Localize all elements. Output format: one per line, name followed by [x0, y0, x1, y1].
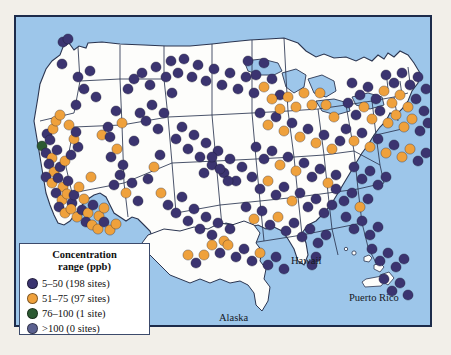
site-point: [156, 188, 166, 198]
site-point: [147, 100, 157, 110]
site-point: [413, 156, 423, 166]
site-point: [63, 176, 73, 186]
site-point: [249, 88, 259, 98]
site-point: [279, 182, 289, 192]
site-point: [281, 226, 291, 236]
site-point: [403, 102, 413, 112]
legend-title-line2: range (ppb): [58, 261, 111, 272]
site-point: [213, 218, 223, 228]
site-point: [251, 70, 261, 80]
site-point: [331, 184, 341, 194]
site-point: [279, 126, 289, 136]
legend-entry-label: >100 (0 sites): [42, 323, 100, 334]
site-point: [243, 56, 253, 66]
site-point: [349, 224, 359, 234]
site-point: [419, 106, 429, 116]
legend-rows: 5–50 (198 sites)51–75 (97 sites)76–100 (…: [26, 276, 143, 336]
site-point: [79, 84, 89, 94]
site-point: [209, 64, 219, 74]
site-point: [357, 128, 367, 138]
site-point: [171, 208, 181, 218]
site-point: [161, 72, 171, 82]
site-point: [271, 252, 281, 262]
label-hawaii: Hawaii: [291, 255, 321, 266]
site-point: [112, 144, 122, 154]
site-point: [153, 124, 163, 134]
site-point: [357, 216, 367, 226]
site-point: [363, 194, 373, 204]
site-point: [166, 56, 176, 66]
site-point: [383, 248, 393, 258]
site-point: [199, 168, 209, 178]
site-point: [283, 152, 293, 162]
site-point: [331, 170, 341, 180]
site-point: [391, 110, 401, 120]
site-point: [399, 122, 409, 132]
site-point: [263, 120, 273, 130]
site-point: [55, 110, 65, 120]
site-point: [249, 214, 259, 224]
site-point: [263, 176, 273, 186]
site-point: [299, 88, 309, 98]
site-point: [53, 173, 63, 183]
site-point: [271, 190, 281, 200]
site-point: [381, 172, 391, 182]
site-point: [303, 202, 313, 212]
site-point: [319, 130, 329, 140]
site-point: [225, 154, 235, 164]
site-point: [367, 244, 377, 254]
site-point: [313, 238, 323, 248]
site-point: [297, 232, 307, 242]
site-point: [173, 68, 183, 78]
legend-title: Concentration range (ppb): [26, 249, 143, 273]
site-point: [395, 90, 405, 100]
site-point: [177, 122, 187, 132]
site-point: [365, 230, 375, 240]
site-point: [149, 162, 159, 172]
site-point: [405, 80, 415, 90]
site-point: [167, 88, 177, 98]
site-point: [307, 172, 317, 182]
site-point: [201, 76, 211, 86]
site-point: [367, 114, 377, 124]
site-point: [355, 202, 365, 212]
site-point: [183, 250, 193, 260]
site-point: [327, 144, 337, 154]
site-point: [273, 212, 283, 222]
site-point: [233, 84, 243, 94]
site-point: [295, 188, 305, 198]
site-point: [117, 118, 127, 128]
site-point: [315, 88, 325, 98]
site-point: [263, 260, 273, 270]
site-point: [291, 102, 301, 112]
site-point: [71, 127, 81, 137]
site-point: [189, 204, 199, 214]
legend-swatch-icon: [27, 293, 38, 304]
site-point: [199, 250, 209, 260]
site-point: [287, 196, 297, 206]
site-point: [415, 126, 425, 136]
site-point: [283, 92, 293, 102]
site-point: [171, 134, 181, 144]
site-point: [111, 219, 121, 229]
site-point: [45, 135, 55, 145]
site-point: [343, 98, 353, 108]
site-point: [307, 100, 317, 110]
site-point: [251, 142, 261, 152]
site-point: [363, 82, 373, 92]
site-point: [259, 82, 269, 92]
label-alaska: Alaska: [219, 312, 248, 323]
site-point: [99, 203, 109, 213]
site-point: [223, 240, 233, 250]
site-point: [247, 172, 257, 182]
site-point: [85, 66, 95, 76]
legend-entry-label: 5–50 (198 sites): [42, 278, 110, 289]
site-point: [237, 162, 247, 172]
legend-swatch-icon: [27, 278, 38, 289]
site-point: [357, 174, 367, 184]
site-point: [79, 194, 89, 204]
legend-title-line1: Concentration: [52, 249, 117, 260]
site-point: [111, 106, 121, 116]
site-point: [163, 200, 173, 210]
site-point: [371, 94, 381, 104]
